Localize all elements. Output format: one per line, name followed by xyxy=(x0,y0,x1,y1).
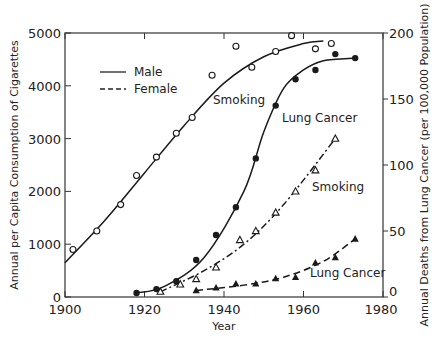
data-point-filled-triangle xyxy=(332,254,339,261)
data-point-filled-triangle xyxy=(312,259,319,266)
y-left-tick-label: 3000 xyxy=(28,132,61,147)
data-point-open-circle xyxy=(233,43,239,49)
data-point-filled-circle xyxy=(352,55,358,61)
data-point-open-circle xyxy=(153,154,159,160)
legend-male-label: Male xyxy=(134,65,162,79)
legend: Male Female xyxy=(100,65,177,96)
annotation-male-lung-cancer: Lung Cancer xyxy=(282,111,357,125)
data-point-open-circle xyxy=(173,130,179,136)
data-point-open-triangle xyxy=(252,227,259,233)
data-point-open-triangle xyxy=(237,236,244,242)
series-female-lung-cancer xyxy=(193,235,359,293)
data-point-filled-circle xyxy=(312,67,318,73)
chart-canvas: 1900192019401960198001000200030004000500… xyxy=(0,0,440,344)
data-point-open-triangle xyxy=(213,264,220,270)
data-point-filled-triangle xyxy=(352,235,359,242)
data-point-open-circle xyxy=(249,64,255,70)
series-line xyxy=(65,41,323,263)
data-point-open-circle xyxy=(312,46,318,52)
data-point-filled-circle xyxy=(193,257,199,263)
y-left-axis-title: Annual per Capita Consumption of Cigaret… xyxy=(8,40,21,290)
data-point-open-triangle xyxy=(292,188,299,194)
y-right-tick-label: 50 xyxy=(389,224,406,239)
annotation-female-lung-cancer: Lung Cancer xyxy=(310,266,385,280)
y-left-tick-label: 4000 xyxy=(28,79,61,94)
y-right-tick-label: 200 xyxy=(389,26,414,41)
data-point-filled-circle xyxy=(272,102,278,108)
data-point-open-circle xyxy=(209,72,215,78)
data-point-open-circle xyxy=(94,228,100,234)
data-point-open-circle xyxy=(189,114,195,120)
data-point-filled-circle xyxy=(233,204,239,210)
y-right-tick-label: 100 xyxy=(389,158,414,173)
data-point-open-circle xyxy=(289,33,295,39)
x-axis-title: Year xyxy=(211,320,236,333)
legend-female-label: Female xyxy=(134,82,177,96)
data-point-open-circle xyxy=(328,41,334,47)
data-point-filled-triangle xyxy=(232,280,239,287)
y-right-axis-title: Annual Deaths from Lung Cancer (per 100,… xyxy=(418,3,431,326)
y-left-tick-label: 1000 xyxy=(28,237,61,252)
series-line xyxy=(196,239,355,290)
data-point-filled-circle xyxy=(292,76,298,82)
data-point-open-circle xyxy=(70,246,76,252)
annotation-female-smoking: Smoking xyxy=(312,180,364,194)
data-point-open-circle xyxy=(273,48,279,54)
y-right-tick-label: 150 xyxy=(389,92,414,107)
y-right-tick-label: 0 xyxy=(389,284,397,299)
data-point-filled-triangle xyxy=(212,284,219,291)
x-tick-label: 1980 xyxy=(364,302,397,317)
data-point-filled-circle xyxy=(253,155,259,161)
data-point-open-circle xyxy=(118,202,124,208)
data-point-filled-triangle xyxy=(292,273,299,280)
data-point-open-triangle xyxy=(332,135,339,141)
y-left-tick-label: 0 xyxy=(53,290,61,305)
data-point-open-circle xyxy=(134,173,140,179)
data-point-filled-circle xyxy=(332,51,338,57)
y-left-tick-label: 5000 xyxy=(28,26,61,41)
data-point-filled-circle xyxy=(133,290,139,296)
x-tick-label: 1940 xyxy=(207,302,240,317)
y-left-tick-label: 2000 xyxy=(28,184,61,199)
annotation-male-smoking: Smoking xyxy=(213,93,265,107)
series-male-smoking xyxy=(65,33,334,263)
data-point-filled-circle xyxy=(213,232,219,238)
x-tick-label: 1960 xyxy=(287,302,320,317)
x-tick-label: 1920 xyxy=(128,302,161,317)
